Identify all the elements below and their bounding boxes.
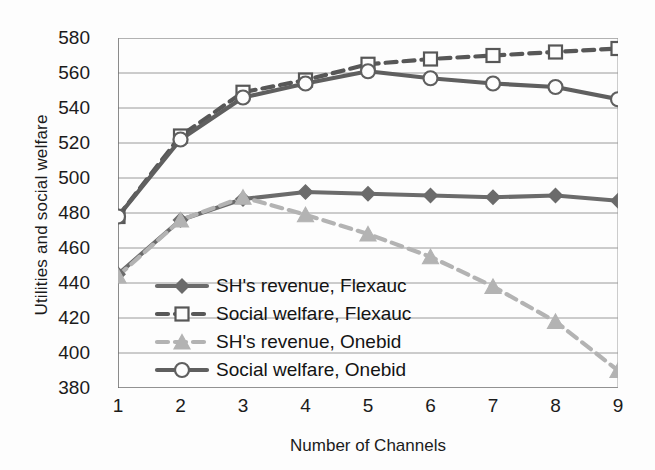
x-tick-label: 4 <box>286 395 326 417</box>
legend-key-icon <box>154 331 210 353</box>
data-point-diamond <box>611 194 618 208</box>
y-tick-label: 520 <box>34 133 90 152</box>
data-point-diamond <box>424 189 438 203</box>
data-point-square <box>176 308 189 321</box>
y-tick-label: 560 <box>34 63 90 82</box>
data-point-square <box>424 53 437 66</box>
legend-item[interactable]: SH's revenue, Onebid <box>154 328 411 356</box>
legend-label: Social welfare, Onebid <box>210 359 406 381</box>
y-tick-label: 400 <box>34 343 90 362</box>
data-point-square <box>549 46 562 59</box>
x-tick-label: 1 <box>98 395 138 417</box>
x-tick-label: 8 <box>536 395 576 417</box>
y-tick-label: 480 <box>34 203 90 222</box>
data-point-circle <box>174 133 188 147</box>
legend-label: Social welfare, Flexauc <box>210 303 411 325</box>
data-point-diamond <box>486 190 500 204</box>
legend-item[interactable]: Social welfare, Flexauc <box>154 300 411 328</box>
data-point-circle <box>361 64 375 78</box>
data-point-circle <box>118 210 125 224</box>
x-tick-label: 3 <box>223 395 263 417</box>
legend-label: SH's revenue, Onebid <box>210 331 401 353</box>
data-point-diamond <box>299 185 313 199</box>
data-point-diamond <box>175 279 189 293</box>
data-point-circle <box>175 363 189 377</box>
data-point-circle <box>299 77 313 91</box>
y-tick-label: 580 <box>34 28 90 47</box>
x-tick-label: 7 <box>473 395 513 417</box>
legend-key-icon <box>154 359 210 381</box>
legend-item[interactable]: Social welfare, Onebid <box>154 356 411 384</box>
legend-key-icon <box>154 303 210 325</box>
data-point-square <box>487 49 500 62</box>
y-tick-label: 460 <box>34 238 90 257</box>
x-tick-label: 5 <box>348 395 388 417</box>
data-point-circle <box>424 71 438 85</box>
x-axis-tick-labels: 123456789 <box>0 395 655 425</box>
y-tick-label: 540 <box>34 98 90 117</box>
data-point-square <box>612 42 619 55</box>
data-point-triangle <box>485 279 501 294</box>
data-point-circle <box>486 77 500 91</box>
x-tick-label: 9 <box>598 395 638 417</box>
y-tick-label: 500 <box>34 168 90 187</box>
chart-legend: SH's revenue, FlexaucSocial welfare, Fle… <box>150 270 415 386</box>
x-tick-label: 6 <box>411 395 451 417</box>
x-tick-label: 2 <box>161 395 201 417</box>
chart-figure: Utilities and social welfare 58056054052… <box>0 0 655 470</box>
legend-key-icon <box>154 275 210 297</box>
data-point-circle <box>549 80 563 94</box>
y-tick-label: 420 <box>34 308 90 327</box>
legend-item[interactable]: SH's revenue, Flexauc <box>154 272 411 300</box>
x-axis-title: Number of Channels <box>118 436 618 456</box>
data-point-diamond <box>549 189 563 203</box>
data-point-circle <box>611 92 618 106</box>
data-point-circle <box>236 91 250 105</box>
legend-label: SH's revenue, Flexauc <box>210 275 407 297</box>
data-point-triangle <box>548 314 564 329</box>
y-tick-label: 440 <box>34 273 90 292</box>
data-point-diamond <box>361 187 375 201</box>
